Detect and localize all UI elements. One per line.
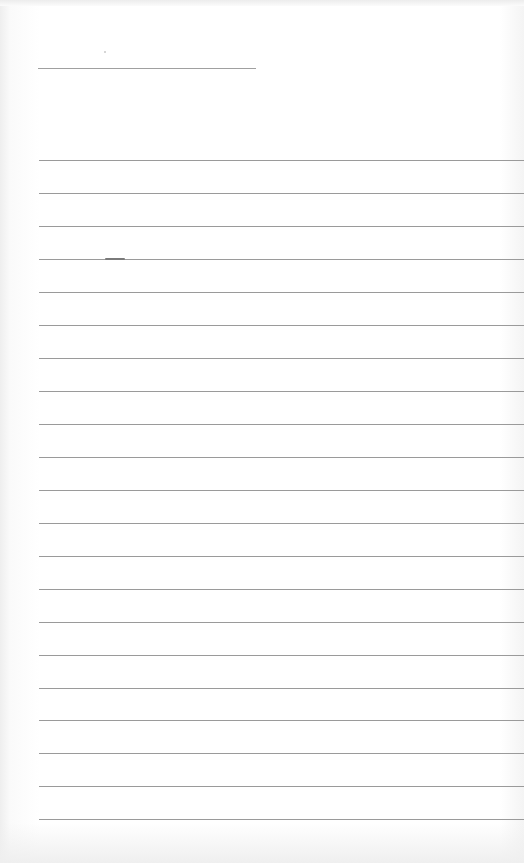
ruled-line	[39, 688, 524, 689]
ruled-line	[39, 720, 524, 721]
pen-mark	[105, 258, 125, 260]
page-bottom-edge	[0, 823, 524, 863]
ruled-line	[39, 523, 524, 524]
ruled-line	[39, 622, 524, 623]
ruled-line	[39, 490, 524, 491]
ruled-line	[39, 786, 524, 787]
page-top-edge	[0, 0, 524, 6]
ruled-line	[39, 424, 524, 425]
ruled-line	[39, 589, 524, 590]
lined-paper-page	[0, 0, 524, 863]
ruled-line	[39, 193, 524, 194]
ruled-line	[39, 226, 524, 227]
paper-speck	[104, 51, 106, 53]
title-line	[38, 68, 256, 69]
ruled-line	[39, 753, 524, 754]
ruled-line	[39, 358, 524, 359]
ruled-line	[39, 655, 524, 656]
ruled-line	[39, 391, 524, 392]
ruled-line	[39, 160, 524, 161]
ruled-line	[39, 819, 524, 820]
ruled-line	[39, 457, 524, 458]
ruled-line	[39, 292, 524, 293]
ruled-line	[39, 325, 524, 326]
ruled-line	[39, 556, 524, 557]
